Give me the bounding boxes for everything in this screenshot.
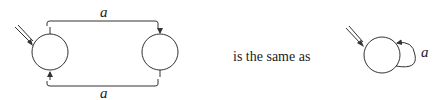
start-arrow-icon (346, 26, 364, 47)
state-q0 (364, 37, 400, 73)
edge-bottom-label: a (100, 85, 108, 100)
state-s0 (32, 34, 68, 70)
left-automaton: a a (15, 4, 178, 100)
start-arrow-icon (15, 25, 33, 46)
edge-bottom (47, 70, 160, 86)
state-s1 (142, 34, 178, 70)
connector-text: is the same as (233, 49, 310, 64)
self-loop-edge (396, 43, 415, 67)
edge-top (47, 21, 160, 34)
edge-top-label: a (100, 4, 108, 20)
self-loop-label: a (421, 44, 429, 60)
right-automaton: a (346, 26, 429, 73)
automaton-diagram: a a is the same as a (0, 0, 438, 100)
